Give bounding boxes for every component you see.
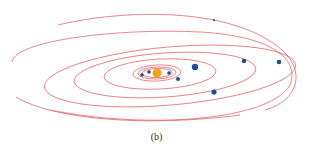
planet-8 xyxy=(277,60,282,65)
planet-4 xyxy=(176,77,180,81)
orbit-ellipse xyxy=(42,36,298,116)
planet-1 xyxy=(140,73,144,77)
orbit-arc xyxy=(58,14,296,110)
planet-7 xyxy=(242,59,247,64)
planet-3 xyxy=(167,71,171,75)
orbit-arc xyxy=(12,31,292,120)
planet-5 xyxy=(192,64,198,70)
planet-group xyxy=(140,19,281,95)
orbit-ellipse xyxy=(73,47,258,104)
planet-2 xyxy=(147,70,151,74)
planet-6 xyxy=(211,89,216,94)
orbit-group xyxy=(42,36,298,116)
sun xyxy=(153,69,162,78)
sun-circle xyxy=(153,69,162,78)
planet-9 xyxy=(213,19,215,21)
outer-orbit-arcs xyxy=(12,14,296,120)
figure-caption: (b) xyxy=(0,131,313,142)
